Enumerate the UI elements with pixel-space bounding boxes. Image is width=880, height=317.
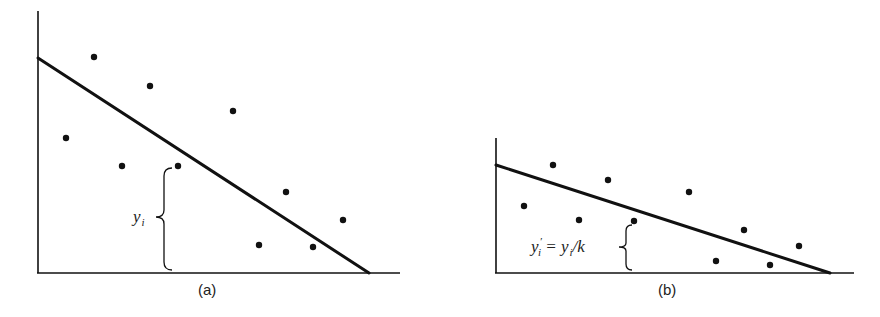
panel-a-yi-label: yi [131,207,145,228]
data-point [310,244,316,250]
data-point [230,108,236,114]
data-point [796,243,802,249]
data-point [283,189,289,195]
data-point [91,54,97,60]
panel-a-caption: (a) [198,281,216,298]
panel-b-brace-icon [619,225,632,270]
panel-b-scaled-yi-label: y′i = yi/k [529,235,585,258]
data-point [63,135,69,141]
data-point [713,258,719,264]
panel-a-brace-icon [156,168,172,270]
data-point [767,262,773,268]
regression-scaling-figure: yi (a) y′i = yi/k (b) [0,0,880,317]
data-point [741,227,747,233]
data-point [550,162,556,168]
data-point [631,218,637,224]
data-point [119,163,125,169]
panel-a-points [63,54,346,250]
data-point [256,242,262,248]
panel-a: yi (a) [37,11,400,298]
panel-a-fit-line [38,58,369,273]
data-point [147,83,153,89]
panel-b: y′i = yi/k (b) [495,138,854,298]
data-point [576,217,582,223]
panel-b-caption: (b) [658,281,676,298]
data-point [521,203,527,209]
panel-b-fit-line [496,165,830,273]
data-point [175,163,181,169]
data-point [340,217,346,223]
data-point [686,189,692,195]
data-point [605,177,611,183]
